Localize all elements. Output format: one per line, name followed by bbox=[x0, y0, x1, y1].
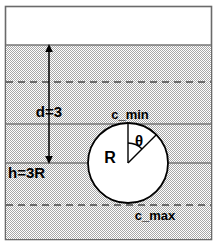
angle-label: θ bbox=[135, 132, 143, 149]
schematic-svg: d=3 h=3R R θ c_min c_max bbox=[0, 0, 219, 247]
diagram-canvas: d=3 h=3R R θ c_min c_max bbox=[0, 0, 219, 247]
height-label: h=3R bbox=[8, 164, 45, 181]
radius-label: R bbox=[104, 149, 116, 166]
cmax-label: c_max bbox=[135, 208, 176, 223]
gap-label: d=3 bbox=[36, 103, 62, 120]
cmin-label: c_min bbox=[111, 107, 149, 122]
